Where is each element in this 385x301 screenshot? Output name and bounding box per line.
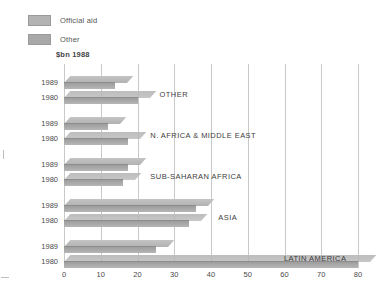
x-axis-tick-label: 10 [97, 270, 105, 279]
bar-slab [64, 132, 140, 145]
category-label: SUB-SAHARAN AFRICA [150, 172, 241, 181]
scan-artifact-left [3, 150, 4, 159]
bar-1989[interactable] [64, 117, 120, 130]
category-label: LATIN AMERICA [284, 254, 346, 263]
year-label-1980: 1980 [32, 134, 58, 143]
bar-front-face [64, 220, 189, 227]
gridline [285, 64, 286, 268]
bar-1980[interactable] [64, 173, 135, 186]
x-axis-tick-label: 70 [317, 270, 325, 279]
bar-slab [64, 117, 120, 130]
year-label-1980: 1980 [32, 257, 58, 266]
plot-area: 01020304050607080 [64, 64, 358, 268]
legend-item-other[interactable]: Other [28, 32, 97, 47]
bar-1980[interactable] [64, 132, 140, 145]
category-label: OTHER [160, 90, 189, 99]
bar-1980[interactable] [64, 91, 150, 104]
x-axis-tick-label: 60 [280, 270, 288, 279]
bar-front-face [64, 82, 115, 89]
x-axis-tick-label: 40 [207, 270, 215, 279]
legend-item-official-aid[interactable]: Official aid [28, 13, 97, 28]
category-label: ASIA [218, 213, 237, 222]
x-axis-tick-label: 80 [354, 270, 362, 279]
legend-swatch-icon [28, 15, 51, 26]
bar-front-face [64, 97, 138, 104]
bar-1980[interactable] [64, 214, 201, 227]
bar-slab [64, 199, 208, 212]
gridline [248, 64, 249, 268]
bar-slab [64, 214, 201, 227]
bar-front-face [64, 164, 128, 171]
year-label-1989: 1989 [32, 119, 58, 128]
bar-front-face [64, 138, 128, 145]
legend-item-label: Other [60, 35, 80, 44]
x-axis-tick-label: 0 [62, 270, 66, 279]
legend-swatch-icon [28, 34, 51, 45]
scan-artifact-bottom-left [1, 277, 9, 278]
legend-item-label: Official aid [60, 16, 97, 25]
bar-front-face [64, 205, 196, 212]
gridline [321, 64, 322, 268]
x-axis-tick-label: 20 [133, 270, 141, 279]
bar-slab [64, 76, 127, 89]
bar-front-face [64, 179, 123, 186]
bar-front-face [64, 123, 108, 130]
bar-slab [64, 173, 135, 186]
year-label-1980: 1980 [32, 175, 58, 184]
x-axis-tick-label: 50 [244, 270, 252, 279]
bar-1989[interactable] [64, 76, 127, 89]
x-axis-tick-label: 30 [170, 270, 178, 279]
year-label-1989: 1989 [32, 78, 58, 87]
axis-unit-title: $bn 1988 [56, 50, 90, 59]
bar-slab [64, 158, 140, 171]
legend: Official aid Other [28, 13, 97, 51]
chart-root: Official aid Other $bn 1988 010203040506… [0, 0, 385, 301]
gridline [358, 64, 359, 268]
bar-front-face [64, 246, 156, 253]
bar-slab [64, 91, 150, 104]
bar-1989[interactable] [64, 240, 168, 253]
bar-1989[interactable] [64, 158, 140, 171]
year-label-1989: 1989 [32, 160, 58, 169]
year-label-1989: 1989 [32, 242, 58, 251]
bar-1989[interactable] [64, 199, 208, 212]
category-label: N. AFRICA & MIDDLE EAST [150, 131, 256, 140]
gridline [211, 64, 212, 268]
year-label-1980: 1980 [32, 93, 58, 102]
year-label-1989: 1989 [32, 201, 58, 210]
bar-slab [64, 240, 168, 253]
year-label-1980: 1980 [32, 216, 58, 225]
